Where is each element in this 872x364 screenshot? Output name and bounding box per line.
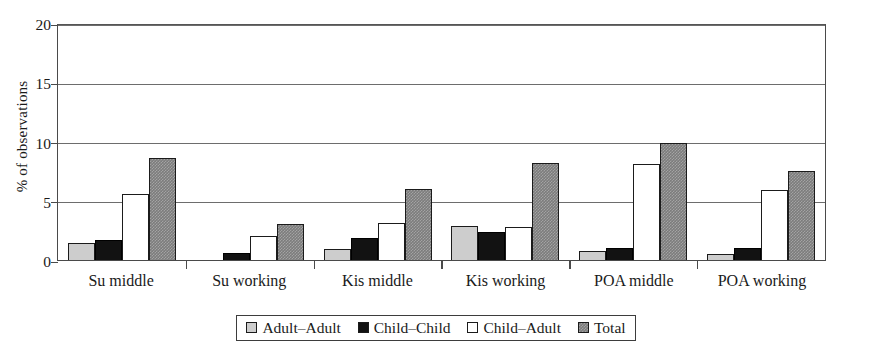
y-axis-tick-mark	[51, 202, 58, 203]
plot-area: 05101520	[57, 24, 826, 261]
y-axis-tick-label: 0	[43, 254, 51, 270]
legend-item-label: Child–Adult	[483, 319, 561, 336]
bar[interactable]	[532, 163, 559, 260]
y-axis-tick-mark	[51, 84, 58, 85]
bar[interactable]	[351, 238, 378, 261]
legend-swatch-icon	[358, 322, 369, 333]
y-axis-title: % of observations	[14, 47, 31, 227]
bar[interactable]	[405, 189, 432, 260]
y-axis-tick-mark	[51, 25, 58, 26]
bar[interactable]	[277, 224, 304, 260]
legend-item[interactable]: Total	[578, 319, 626, 336]
bar-group-bars	[569, 25, 697, 260]
bar-group-bars	[441, 25, 569, 260]
y-axis-tick-label: 15	[36, 77, 52, 93]
bar[interactable]	[250, 236, 277, 260]
bar[interactable]	[68, 243, 95, 260]
bar[interactable]	[734, 248, 761, 260]
legend-swatch-icon	[578, 322, 589, 333]
bar[interactable]	[579, 251, 606, 260]
y-axis-tick-label: 10	[36, 136, 52, 152]
bar[interactable]	[788, 171, 815, 260]
bar[interactable]	[324, 249, 351, 260]
bar[interactable]	[451, 226, 478, 260]
bar[interactable]	[633, 164, 660, 260]
bar-group	[186, 25, 314, 260]
bar-group	[569, 25, 697, 260]
bar-chart-figure: % of observations 05101520 Su middleSu w…	[0, 0, 872, 364]
x-axis-label: Su middle	[57, 268, 185, 294]
bar[interactable]	[660, 143, 687, 260]
legend-item[interactable]: Child–Child	[358, 319, 451, 336]
x-axis-label: Su working	[185, 268, 313, 294]
bar[interactable]	[761, 190, 788, 260]
bar[interactable]	[122, 194, 149, 260]
bar[interactable]	[378, 223, 405, 260]
bar-group	[314, 25, 442, 260]
bar[interactable]	[149, 158, 176, 260]
legend-item-label: Child–Child	[374, 319, 451, 336]
bar-group-bars	[314, 25, 442, 260]
legend-item[interactable]: Child–Adult	[467, 319, 561, 336]
y-axis-tick-label: 20	[36, 17, 52, 33]
x-axis-labels: Su middleSu workingKis middleKis working…	[57, 268, 826, 294]
legend-swatch-icon	[246, 322, 257, 333]
legend-item[interactable]: Adult–Adult	[246, 319, 340, 336]
bar-group-bars	[58, 25, 186, 260]
bar[interactable]	[505, 227, 532, 260]
legend-item-label: Total	[594, 319, 626, 336]
legend-item-label: Adult–Adult	[262, 319, 340, 336]
bar-group	[58, 25, 186, 260]
bar[interactable]	[95, 240, 122, 260]
bar[interactable]	[478, 232, 505, 260]
bar-group	[441, 25, 569, 260]
bar-groups	[58, 25, 825, 260]
y-axis-tick-mark	[51, 262, 58, 263]
bar-group-bars	[697, 25, 825, 260]
x-axis-label: Kis working	[442, 268, 570, 294]
x-axis-label: POA working	[698, 268, 826, 294]
x-axis-label: Kis middle	[313, 268, 441, 294]
legend: Adult–AdultChild–ChildChild–AdultTotal	[0, 315, 872, 341]
bar-group-bars	[186, 25, 314, 260]
legend-swatch-icon	[467, 322, 478, 333]
bar[interactable]	[606, 248, 633, 260]
y-axis-tick-mark	[51, 143, 58, 144]
x-axis-label: POA middle	[570, 268, 698, 294]
bar[interactable]	[223, 253, 250, 260]
bar[interactable]	[707, 254, 734, 260]
bar-group	[697, 25, 825, 260]
y-axis-tick-label: 5	[43, 195, 51, 211]
legend-box: Adult–AdultChild–ChildChild–AdultTotal	[236, 315, 635, 341]
